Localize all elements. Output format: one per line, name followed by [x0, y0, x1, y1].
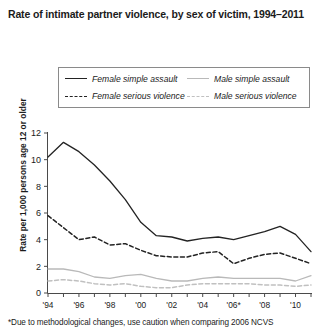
y-tick-label: 2 — [36, 262, 41, 272]
x-tick-label: '96 — [73, 300, 84, 310]
x-tick-label: '00 — [135, 300, 146, 310]
x-tick-label: '02 — [166, 300, 177, 310]
data-series-group — [48, 142, 311, 287]
y-axis-ticks: 024681012 — [31, 128, 48, 298]
y-tick-label: 12 — [31, 128, 41, 138]
x-tick-label: '06* — [227, 300, 242, 310]
x-tick-label: '94 — [43, 300, 54, 310]
x-tick-label: '10 — [290, 300, 301, 310]
x-axis-ticks: '94'96'98'00'02'04'06*'08'10 — [43, 293, 311, 310]
y-tick-label: 8 — [36, 182, 41, 192]
series-line — [48, 269, 311, 281]
x-tick-label: '08 — [259, 300, 270, 310]
y-tick-label: 6 — [36, 208, 41, 218]
line-chart-plot: 024681012 '94'96'98'00'02'04'06*'08'10 — [0, 0, 318, 318]
chart-footnote: *Due to methodological changes, use caut… — [8, 318, 314, 328]
x-tick-label: '98 — [104, 300, 115, 310]
y-tick-label: 10 — [31, 155, 41, 165]
series-line — [48, 142, 311, 251]
y-tick-label: 4 — [36, 235, 41, 245]
x-tick-label: '04 — [197, 300, 208, 310]
y-tick-label: 0 — [36, 288, 41, 298]
